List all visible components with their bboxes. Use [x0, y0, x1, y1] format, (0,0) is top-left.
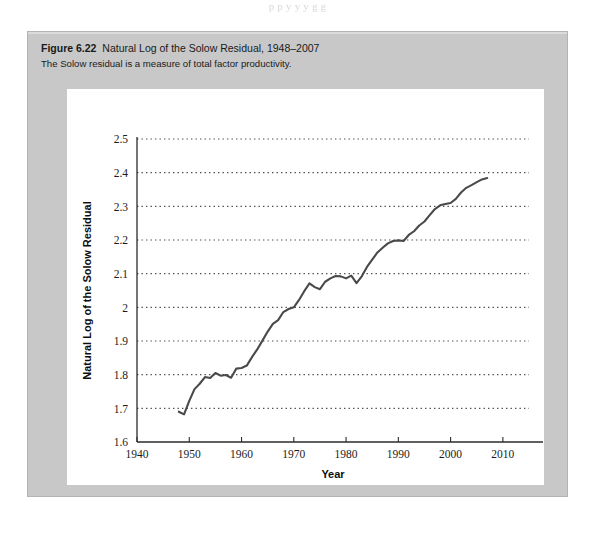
y-axis-tick-label: 2.2 [114, 234, 129, 246]
x-axis-tick-label: 1990 [387, 448, 410, 460]
figure-title-text: Natural Log of the Solow Residual, 1948–… [102, 42, 319, 54]
line-chart: 1.61.71.81.922.12.22.32.42.5194019501960… [67, 89, 544, 485]
x-axis-tick-label: 1970 [282, 448, 305, 460]
y-axis-tick-label: 2.4 [114, 167, 129, 179]
figure-number-label: Figure 6.22 [41, 42, 96, 54]
x-axis-tick-label: 2000 [439, 448, 462, 460]
x-axis-tick-label: 1950 [178, 448, 201, 460]
figure-container: Figure 6.22 Natural Log of the Solow Res… [27, 31, 568, 497]
figure-title-line: Figure 6.22 Natural Log of the Solow Res… [41, 41, 551, 55]
figure-subtitle: The Solow residual is a measure of total… [41, 57, 551, 71]
y-axis-tick-label: 1.7 [114, 403, 129, 415]
y-axis-tick-label: 2.5 [114, 133, 129, 145]
y-axis-tick-label: 1.6 [114, 436, 129, 448]
y-axis-tick-label: 2.3 [114, 201, 129, 213]
y-axis-tick-label: 1.8 [114, 369, 129, 381]
x-axis-tick-label: 1940 [126, 448, 149, 460]
x-axis-title: Year [321, 468, 345, 480]
y-axis-tick-label: 1.9 [114, 335, 129, 347]
page-body-text-fragment: p p y y y g g [0, 0, 595, 16]
y-axis-tick-label: 2.1 [114, 268, 129, 280]
x-axis-tick-label: 1960 [230, 448, 253, 460]
x-axis-tick-label: 2010 [491, 448, 514, 460]
figure-caption: Figure 6.22 Natural Log of the Solow Res… [41, 41, 551, 71]
plot-panel: 1.61.71.81.922.12.22.32.42.5194019501960… [67, 89, 544, 485]
y-axis-title: Natural Log of the Solow Residual [81, 201, 93, 379]
y-axis-tick-label: 2 [122, 302, 128, 314]
x-axis-tick-label: 1980 [335, 448, 358, 460]
data-series-line [179, 178, 487, 414]
